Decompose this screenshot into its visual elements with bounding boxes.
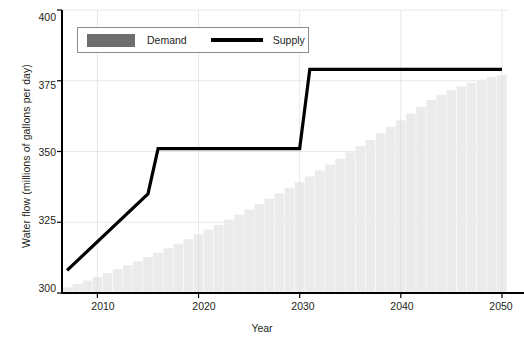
- demand-bar: [487, 77, 497, 293]
- demand-bar: [204, 230, 214, 293]
- demand-bar: [416, 107, 426, 293]
- demand-bar: [467, 83, 477, 293]
- demand-bar: [305, 176, 315, 293]
- demand-bar: [315, 170, 325, 293]
- chart-legend: Demand Supply: [77, 27, 309, 53]
- demand-bar: [386, 127, 396, 293]
- demand-bar: [325, 165, 335, 293]
- demand-bars: [62, 75, 506, 293]
- demand-bar: [82, 281, 92, 293]
- demand-bar: [153, 253, 163, 293]
- demand-bar: [457, 86, 467, 293]
- demand-bar: [406, 114, 416, 293]
- demand-bar: [224, 220, 234, 293]
- demand-bar: [143, 257, 153, 293]
- demand-bar: [113, 269, 123, 293]
- demand-bar: [214, 225, 224, 293]
- legend-label-supply: Supply: [273, 34, 305, 46]
- demand-bar: [477, 80, 487, 293]
- demand-bar: [123, 265, 133, 293]
- legend-label-demand: Demand: [147, 34, 187, 46]
- demand-bar: [103, 273, 113, 293]
- demand-bar: [265, 199, 275, 293]
- demand-bar: [72, 284, 82, 293]
- demand-bar: [426, 100, 436, 293]
- legend-swatch-demand: [87, 34, 135, 47]
- demand-bar: [163, 248, 173, 293]
- demand-bar: [184, 239, 194, 293]
- demand-bar: [447, 90, 457, 293]
- demand-bar: [436, 95, 446, 293]
- demand-bar: [285, 188, 295, 293]
- demand-bar: [133, 261, 143, 293]
- demand-bar: [174, 244, 184, 293]
- demand-bar: [275, 193, 285, 293]
- demand-bar: [356, 146, 366, 293]
- demand-bar: [376, 133, 386, 293]
- demand-bar: [234, 215, 244, 293]
- demand-bar: [366, 140, 376, 293]
- chart-figure: Water flow (millions of gallons per day)…: [0, 0, 524, 343]
- demand-bar: [345, 152, 355, 293]
- demand-bar: [335, 159, 345, 293]
- legend-line-supply: [211, 38, 263, 42]
- demand-bar: [244, 210, 254, 293]
- demand-bar: [254, 204, 264, 293]
